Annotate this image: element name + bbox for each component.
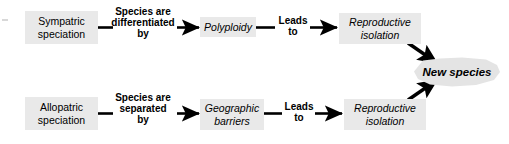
edge-label-leads-to-bottom: Leads to (281, 101, 317, 123)
speciation-flowchart: Sympatric speciation Species are differe… (0, 0, 509, 144)
edge-label-separated-by: Species are separated by (106, 92, 180, 126)
node-sympatric-speciation: Sympatric speciation (25, 11, 98, 44)
node-reproductive-isolation-bottom: Reproductive isolation (344, 99, 426, 130)
new-species-label: New species (422, 66, 491, 78)
node-new-species: New species (411, 57, 503, 87)
scan-artifact (2, 19, 8, 21)
edge-label-differentiated-by: Species are differentiated by (106, 6, 180, 40)
node-reproductive-isolation-top: Reproductive isolation (339, 13, 421, 44)
edge-label-leads-to-top: Leads to (275, 15, 311, 37)
node-geographic-barriers: Geographic barriers (200, 99, 264, 130)
node-polyploidy: Polyploidy (200, 17, 256, 37)
node-allopatric-speciation: Allopatric speciation (25, 97, 98, 130)
